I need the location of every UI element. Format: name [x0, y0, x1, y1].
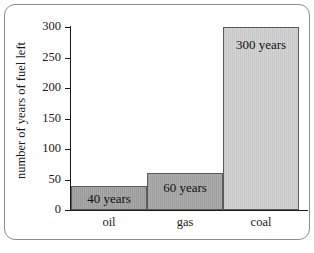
bar-label-gas: 60 years — [148, 180, 222, 196]
y-tick-50: 50 — [65, 180, 70, 181]
x-axis-line — [70, 210, 308, 211]
x-category-label-oil: oil — [71, 215, 147, 230]
figure: number of years of fuel left 0 50 100 15… — [0, 0, 314, 253]
y-tick-label-50: 50 — [49, 172, 62, 187]
x-category-label-coal: coal — [223, 215, 299, 230]
y-tick-100: 100 — [65, 149, 70, 150]
y-tick-0: 0 — [65, 210, 70, 211]
plot-area: 0 50 100 150 200 250 300 40 years 60 yea… — [70, 27, 301, 210]
bar-label-oil: 40 years — [72, 191, 146, 207]
y-tick-label-300: 300 — [42, 19, 61, 34]
y-axis-line — [70, 26, 71, 211]
y-tick-150: 150 — [65, 119, 70, 120]
y-tick-200: 200 — [65, 88, 70, 89]
y-tick-300: 300 — [65, 27, 70, 28]
bar-coal[interactable]: 300 years — [223, 27, 299, 210]
y-tick-label-100: 100 — [42, 141, 61, 156]
y-tick-label-150: 150 — [42, 111, 61, 126]
y-tick-label-250: 250 — [42, 50, 61, 65]
y-axis-title: number of years of fuel left — [14, 16, 29, 206]
y-tick-250: 250 — [65, 58, 70, 59]
y-tick-label-200: 200 — [42, 80, 61, 95]
bar-oil[interactable]: 40 years — [71, 186, 147, 210]
bar-gas[interactable]: 60 years — [147, 173, 223, 210]
x-category-label-gas: gas — [147, 215, 223, 230]
y-tick-label-0: 0 — [55, 202, 61, 217]
bar-label-coal: 300 years — [224, 37, 298, 53]
